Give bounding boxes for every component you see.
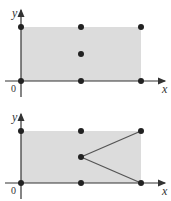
point: [78, 78, 84, 84]
point: [18, 78, 24, 84]
panel-top: y x 0: [5, 6, 168, 97]
origin-label: 0: [11, 185, 16, 196]
point: [78, 51, 84, 57]
panel-bottom: y x 0: [5, 110, 168, 199]
point: [138, 24, 144, 30]
y-axis-label: y: [11, 6, 18, 20]
point: [78, 180, 84, 186]
point: [18, 24, 24, 30]
figure: y x 0 y x 0: [0, 0, 171, 201]
x-axis-label: x: [161, 82, 168, 96]
point: [138, 180, 144, 186]
point: [78, 24, 84, 30]
origin-label: 0: [11, 83, 16, 94]
y-axis-label: y: [11, 110, 18, 124]
point: [78, 128, 84, 134]
point: [78, 154, 84, 160]
point: [138, 78, 144, 84]
x-axis-label: x: [161, 184, 168, 198]
point: [18, 128, 24, 134]
point: [138, 128, 144, 134]
point: [18, 180, 24, 186]
